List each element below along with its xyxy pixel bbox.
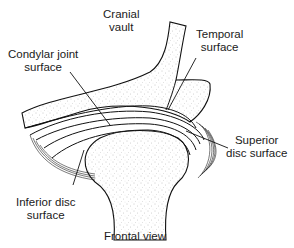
label-inferior-disc-surface: Inferior disc surface bbox=[16, 196, 75, 222]
label-line: Condylar joint bbox=[8, 48, 78, 61]
label-temporal-surface: Temporal surface bbox=[196, 28, 243, 54]
label-cranial-vault: Cranial vault bbox=[103, 8, 139, 34]
diagram-caption: Frontal view bbox=[104, 230, 166, 243]
label-condylar-joint-surface: Condylar joint surface bbox=[8, 48, 78, 74]
label-line: surface bbox=[8, 61, 78, 74]
label-line: Superior bbox=[226, 134, 287, 147]
mandibular-condyle bbox=[85, 131, 188, 241]
label-line: Cranial bbox=[103, 8, 139, 21]
label-line: vault bbox=[103, 21, 139, 34]
label-line: Inferior disc bbox=[16, 196, 75, 209]
label-line: surface bbox=[16, 209, 75, 222]
label-line: surface bbox=[196, 41, 243, 54]
label-superior-disc-surface: Superior disc surface bbox=[226, 134, 287, 160]
label-line: Temporal bbox=[196, 28, 243, 41]
label-line: disc surface bbox=[226, 147, 287, 160]
